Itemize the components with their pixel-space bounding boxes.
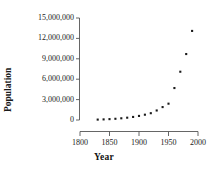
y-axis	[76, 18, 80, 120]
y-tick-label: 9,000,000	[0, 54, 74, 63]
y-tick-label: 15,000,000	[0, 13, 74, 22]
x-tick-label: 1850	[95, 138, 125, 147]
x-tick-label: 1800	[65, 138, 95, 147]
x-axis-title: Year	[0, 152, 208, 162]
data-point	[179, 71, 181, 73]
data-point	[150, 112, 152, 114]
y-axis-title: Population	[3, 68, 13, 112]
data-point	[120, 117, 122, 119]
data-point	[108, 118, 110, 120]
y-tick-label: 0	[0, 115, 74, 124]
x-axis-ticks	[80, 132, 198, 137]
data-point	[138, 115, 140, 117]
data-point	[167, 103, 169, 105]
x-axis	[80, 132, 198, 137]
data-point	[97, 119, 99, 121]
population-scatter-chart: 03,000,0006,000,0009,000,00012,000,00015…	[0, 0, 208, 173]
data-point	[162, 106, 164, 108]
x-tick-label: 2000	[183, 138, 208, 147]
data-point	[114, 118, 116, 120]
y-tick-label: 12,000,000	[0, 33, 74, 42]
data-point	[126, 117, 128, 119]
x-tick-label: 1900	[124, 138, 154, 147]
data-point	[156, 109, 158, 111]
data-point-markers	[97, 30, 194, 121]
data-point	[185, 53, 187, 55]
data-point	[103, 118, 105, 120]
data-point	[132, 116, 134, 118]
plot-area	[0, 0, 208, 173]
data-point	[173, 87, 175, 89]
y-axis-ticks	[76, 18, 80, 120]
data-point	[191, 30, 193, 32]
x-tick-label: 1950	[154, 138, 184, 147]
data-point	[144, 114, 146, 116]
